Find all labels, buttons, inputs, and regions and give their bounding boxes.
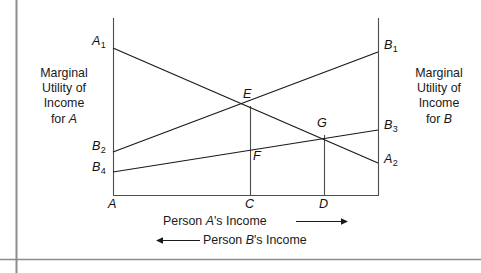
x-tick-label-c: C xyxy=(245,197,254,211)
point-label-b1: B1 xyxy=(384,38,397,52)
point-label-b1-sub: 1 xyxy=(393,44,398,54)
point-label-a1: A1 xyxy=(92,34,105,48)
point-label-g: G xyxy=(317,116,327,130)
right-caption-line-3: Income xyxy=(398,96,480,111)
point-label-e: E xyxy=(243,87,251,101)
x-label-b-suffix: 's Income xyxy=(254,233,307,247)
left-caption-line-2: Utility of xyxy=(22,81,106,96)
left-caption-line-3: Income xyxy=(22,96,106,111)
x-axis-label-person-a: Person A's Income xyxy=(163,214,267,228)
right-caption-for: for xyxy=(426,112,444,126)
x-label-b-variable: B xyxy=(246,233,254,247)
point-label-b2: B2 xyxy=(92,139,105,153)
point-label-b3-text: B xyxy=(384,118,392,132)
point-label-b3-sub: 3 xyxy=(393,124,398,134)
right-caption-variable: B xyxy=(444,112,452,126)
right-caption-line-2: Utility of xyxy=(398,81,480,96)
right-axis-caption: Marginal Utility of Income for B xyxy=(398,66,480,127)
right-caption-line-4: for B xyxy=(398,112,480,127)
x-label-a-prefix: Person xyxy=(163,214,206,228)
arrow-head-left-icon xyxy=(156,237,163,244)
point-label-a1-text: A xyxy=(92,34,100,48)
left-caption-line-4: for A xyxy=(22,112,106,127)
point-label-b2-sub: 2 xyxy=(101,145,106,155)
left-caption-variable: A xyxy=(69,112,77,126)
figure-container: Marginal Utility of Income for A Margina… xyxy=(0,0,481,273)
left-axis-caption: Marginal Utility of Income for A xyxy=(22,66,106,127)
point-label-a2: A2 xyxy=(384,152,397,166)
arrow-head-right-icon xyxy=(341,218,348,225)
point-label-a1-sub: 1 xyxy=(101,40,106,50)
point-label-b4: B4 xyxy=(92,160,105,174)
point-label-b4-text: B xyxy=(92,160,100,174)
curve-a1-a2 xyxy=(113,48,378,163)
left-caption-for: for xyxy=(51,112,69,126)
point-label-b1-text: B xyxy=(384,38,392,52)
point-label-a2-sub: 2 xyxy=(393,158,398,168)
right-caption-line-1: Marginal xyxy=(398,66,480,81)
x-label-b-prefix: Person xyxy=(203,233,246,247)
point-label-b3: B3 xyxy=(384,118,397,132)
x-tick-label-d: D xyxy=(319,197,328,211)
x-tick-label-a: A xyxy=(108,197,116,211)
left-caption-line-1: Marginal xyxy=(22,66,106,81)
point-label-f: F xyxy=(253,149,261,163)
curve-b4-b3 xyxy=(113,130,378,172)
point-label-b2-text: B xyxy=(92,139,100,153)
x-label-a-variable: A xyxy=(206,214,214,228)
x-label-a-suffix: 's Income xyxy=(214,214,267,228)
x-axis-label-person-b: Person B's Income xyxy=(203,233,307,247)
point-label-a2-text: A xyxy=(384,152,392,166)
point-label-b4-sub: 4 xyxy=(101,166,106,176)
curve-b2-b1 xyxy=(113,52,378,152)
